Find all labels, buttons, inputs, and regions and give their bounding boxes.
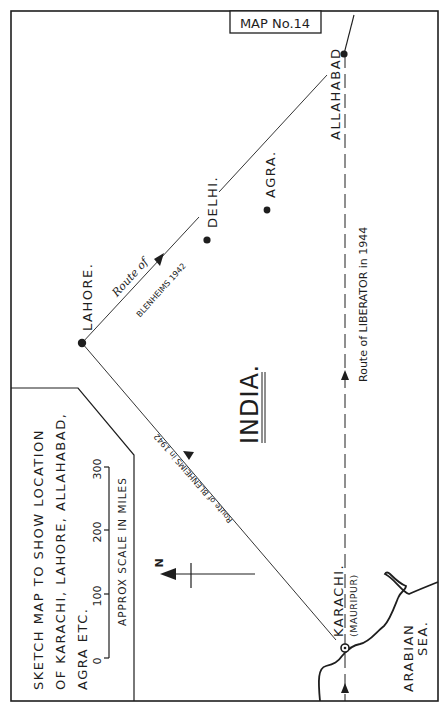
svg-text:INDIA.: INDIA. (236, 364, 264, 444)
map-frame (11, 11, 438, 701)
region-label-india: INDIA. (236, 364, 265, 444)
legend-line-3: AGRA ETC. (75, 608, 90, 690)
route-blenheims-in-label: Route of BLENHEIMS in 1942 (152, 432, 234, 525)
north-arrow-icon: N (153, 558, 255, 588)
city-label-allahabad: ALLAHABAD (328, 47, 343, 140)
sea-label-line1: ARABIAN (401, 624, 416, 692)
route-blenheims-out-line1: Route of (109, 254, 152, 300)
north-label: N (153, 558, 166, 567)
scale-tick-100: 100 (91, 586, 104, 607)
city-label-karachi: KARACHI. (331, 564, 346, 637)
sketch-map: MAP No.14 SKETCH MAP TO SHOW LOCATION OF… (0, 0, 443, 711)
legend-line-1: SKETCH MAP TO SHOW LOCATION (31, 429, 46, 690)
scale-bar: 0 100 200 300 APPROX SCALE IN MILES (91, 459, 128, 665)
scale-tick-200: 200 (91, 522, 104, 543)
route-liberator-label: Route of LIBERATOR in 1944 (357, 227, 370, 382)
map-title-box: MAP No.14 (230, 11, 321, 33)
city-label-delhi: DELHI. (205, 176, 220, 228)
city-dot-agra[interactable] (264, 207, 271, 214)
city-sublabel-mauripur: (MAURIPUR) (348, 574, 359, 637)
city-label-lahore: LAHORE. (80, 263, 95, 331)
legend-line-2: OF KARACHI, LAHORE, ALLAHABAD, (53, 413, 68, 690)
scale-tick-300: 300 (91, 459, 104, 480)
city-label-agra: AGRA. (263, 150, 278, 198)
scale-caption: APPROX SCALE IN MILES (116, 477, 128, 626)
sea-label-line2: SEA. (415, 621, 430, 656)
map-title: MAP No.14 (240, 16, 310, 31)
city-dot-delhi[interactable] (203, 236, 210, 243)
scale-tick-0: 0 (91, 658, 104, 665)
city-dot-karachi[interactable] (341, 644, 349, 652)
city-dot-lahore[interactable] (78, 339, 86, 347)
legend-box: SKETCH MAP TO SHOW LOCATION OF KARACHI, … (11, 388, 134, 701)
